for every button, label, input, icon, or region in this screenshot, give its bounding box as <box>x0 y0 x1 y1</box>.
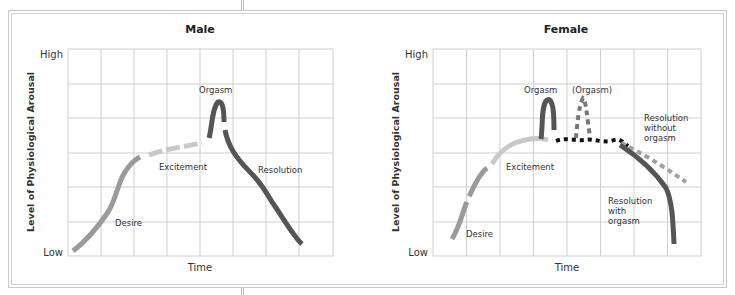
male-excitement-label: Excitement <box>159 162 208 172</box>
female-optional-orgasm-label: (Orgasm) <box>572 85 612 95</box>
female-grid <box>433 49 701 256</box>
female-res-with-label-3: orgasm <box>608 216 640 226</box>
female-res-without-label-3: orgasm <box>644 133 676 143</box>
male-orgasm-label: Orgasm <box>199 85 232 95</box>
male-orgasm-curve <box>209 102 224 138</box>
female-res-with-label-2: with <box>608 206 626 216</box>
female-y-low-label: Low <box>408 247 428 258</box>
male-desire-label: Desire <box>115 218 142 228</box>
male-grid <box>68 49 333 256</box>
male-y-axis-label: Level of Physiological Arousal <box>25 72 36 232</box>
female-y-high-label: High <box>405 49 428 60</box>
male-y-high-label: High <box>40 49 63 60</box>
male-desire-curve <box>73 157 140 251</box>
female-title: Female <box>544 23 589 36</box>
male-chart: Male High Low Level of Physiological Aro… <box>25 23 333 273</box>
female-orgasm-label: Orgasm <box>524 85 557 95</box>
female-orgasm-curve <box>541 100 554 139</box>
female-desire-label: Desire <box>466 229 493 239</box>
female-y-axis-label: Level of Physiological Arousal <box>390 72 401 232</box>
male-title: Male <box>185 23 215 36</box>
male-x-axis-label: Time <box>187 262 212 273</box>
charts-canvas: Male High Low Level of Physiological Aro… <box>0 0 735 295</box>
female-res-with-label-1: Resolution <box>608 196 652 206</box>
female-res-without-label-1: Resolution <box>644 113 688 123</box>
female-resolution-with-orgasm-curve <box>620 145 674 244</box>
female-chart: Female High Low Level of Physiological A… <box>390 23 701 273</box>
female-excitement-label: Excitement <box>506 162 555 172</box>
female-x-axis-label: Time <box>554 262 579 273</box>
male-y-low-label: Low <box>43 247 63 258</box>
female-res-without-label-2: without <box>644 123 677 133</box>
male-resolution-label: Resolution <box>258 165 302 175</box>
